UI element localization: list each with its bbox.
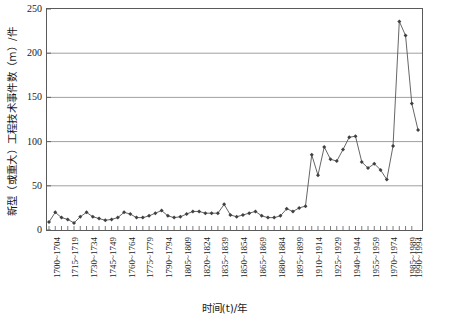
data-point [97,217,101,221]
data-point [328,157,332,161]
x-axis-tick-label: 1990~1994 [415,237,424,297]
x-axis-ticks [49,226,412,230]
data-point [110,217,114,221]
data-point [410,102,414,106]
data-point [178,215,182,219]
y-axis-tick-label: 150 [20,92,42,102]
y-axis-tick-label: 50 [20,181,42,191]
data-point [185,212,189,216]
y-axis-tick-label: 200 [20,48,42,58]
data-point [297,206,301,210]
plot-area [46,8,423,231]
x-axis-tick-label: 1745~1749 [109,237,118,297]
x-axis-tick-label: 1910~1914 [315,237,324,297]
x-axis-tick-label: 1730~1734 [90,237,99,297]
x-axis-tick-label: 1955~1959 [372,237,381,297]
data-point [322,145,326,149]
x-axis-tick-labels: 1700~17041715~17191730~17341745~17491760… [0,231,449,301]
x-axis-title: 时间(t)/年 [0,300,449,315]
data-point [172,216,176,220]
data-point [404,34,408,38]
data-point [397,19,401,23]
data-point [141,216,145,220]
data-point [147,214,151,218]
data-point [291,209,295,213]
data-point [210,211,214,215]
data-point [203,211,207,215]
x-axis-title-text: 时间(t)/年 [202,302,248,314]
series-line [49,21,418,223]
x-axis-tick-label: 1925~1929 [334,237,343,297]
data-point [191,209,195,213]
line-chart-svg [47,9,422,230]
x-axis-tick-label: 1775~1779 [146,237,155,297]
data-point [128,212,132,216]
data-point [347,135,351,139]
y-axis-ticks [47,9,51,230]
data-point [310,153,314,157]
data-point [391,144,395,148]
x-axis-tick-label: 1865~1869 [259,237,268,297]
data-point [272,216,276,220]
x-axis-tick-label: 1895~1899 [296,237,305,297]
x-axis-tick-label: 1850~1854 [240,237,249,297]
x-axis-tick-label: 1790~1794 [165,237,174,297]
x-axis-tick-label: 1880~1884 [278,237,287,297]
data-point [153,211,157,215]
series-markers [47,19,420,225]
data-point [241,213,245,217]
x-axis-tick-label: 1820~1824 [203,237,212,297]
x-axis-tick-label: 1835~1839 [221,237,230,297]
x-axis-tick-label: 1700~1704 [53,237,62,297]
data-point [247,211,251,215]
x-axis-tick-label: 1940~1944 [353,237,362,297]
data-point [228,213,232,217]
y-axis-tick-label: 250 [20,4,42,14]
data-point [335,159,339,163]
x-axis-tick-label: 1760~1764 [128,237,137,297]
data-point [341,148,345,152]
data-point [197,209,201,213]
y-axis-tick-label: 100 [20,137,42,147]
data-point [303,204,307,208]
data-point [103,218,107,222]
data-point [235,215,239,219]
x-axis-tick-label: 1805~1809 [184,237,193,297]
x-axis-tick-label: 1970~1974 [390,237,399,297]
x-axis-tick-label: 1715~1719 [71,237,80,297]
data-point [135,216,139,220]
chart-figure: 新型（或重大）工程技术事件数（m）/件 050100150200250 1700… [0,0,449,322]
data-point [266,216,270,220]
data-point [416,128,420,132]
data-point [316,173,320,177]
data-point [354,134,358,138]
data-point [66,217,70,221]
